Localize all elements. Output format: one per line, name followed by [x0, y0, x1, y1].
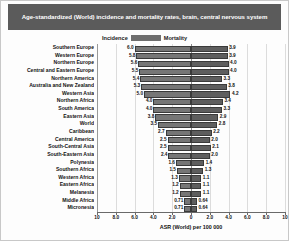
incidence-value-label: 0.71 — [174, 197, 183, 205]
x-axis-title: ASR (World) per 100 000 — [97, 224, 285, 230]
mortality-value-label: 4.0 — [230, 67, 237, 75]
chart-row: Micronesia0.710.64 — [0, 204, 289, 212]
chart-row: South-Central Asia2.52.1 — [0, 143, 289, 151]
incidence-value-label: 1.3 — [171, 174, 178, 182]
mortality-value-label: 1.1 — [203, 189, 210, 197]
incidence-value-label: 5.3 — [134, 82, 141, 90]
incidence-value-label: 5.5 — [132, 67, 139, 75]
mortality-value-label: 2.8 — [219, 120, 226, 128]
category-label: Southern Europe — [0, 44, 94, 52]
chart-legend: Incidence Mortality — [0, 33, 289, 42]
chart-row: Southern Africa1.51.3 — [0, 166, 289, 174]
category-label: Eastern Asia — [0, 113, 94, 121]
axis-tick-label: 2.0 — [169, 215, 176, 220]
axis-tick-label: 6.0 — [131, 215, 138, 220]
mortality-value-label: 0.64 — [199, 197, 208, 205]
chart-row: South America4.03.3 — [0, 105, 289, 113]
mortality-value-label: 1.1 — [203, 174, 210, 182]
axis-tick-label: 10 — [94, 215, 99, 220]
chart-row: Eastern Asia3.82.9 — [0, 113, 289, 121]
category-label: South-Eastern Asia — [0, 151, 94, 159]
chart-row: Northern Africa4.03.4 — [0, 97, 289, 105]
mortality-value-label: 3.9 — [229, 52, 236, 60]
mortality-value-label: 3.3 — [224, 75, 231, 83]
incidence-value-label: 2.7 — [158, 128, 165, 136]
category-label: Melanesia — [0, 189, 94, 197]
category-label: World — [0, 120, 94, 128]
bar-rows: Southern Europe6.03.9Western Europe5.83.… — [0, 44, 289, 212]
chart-row: Western Europe5.83.9 — [0, 52, 289, 60]
chart-row: Middle Africa0.710.64 — [0, 197, 289, 205]
chart-row: South-Eastern Asia2.42.0 — [0, 151, 289, 159]
chart-row: Southern Europe6.03.9 — [0, 44, 289, 52]
incidence-value-label: 3.8 — [148, 113, 155, 121]
mortality-value-label: 0.64 — [199, 204, 208, 212]
incidence-value-label: 2.4 — [161, 151, 168, 159]
category-label: Central America — [0, 136, 94, 144]
incidence-value-label: 4.0 — [146, 105, 153, 113]
incidence-value-label: 5.6 — [131, 59, 138, 67]
mortality-value-label: 3.3 — [224, 105, 231, 113]
chart-row: Northern America5.43.3 — [0, 75, 289, 83]
chart-row: Caribbean2.72.2 — [0, 128, 289, 136]
mortality-value-label: 3.9 — [229, 44, 236, 52]
incidence-value-label: 4.0 — [146, 97, 153, 105]
axis-tick-label: 10 — [282, 215, 287, 220]
axis-tick-label: 4.0 — [150, 215, 157, 220]
category-label: Australia and New Zealand — [0, 82, 94, 90]
mortality-value-label: 2.2 — [213, 128, 220, 136]
legend-mortality-label: Mortality — [164, 35, 187, 41]
mortality-value-label: 4.0 — [230, 59, 237, 67]
x-axis: 108.06.04.02.002.04.06.08.010 — [0, 212, 289, 224]
category-label: Central and Eastern Europe — [0, 67, 94, 75]
incidence-value-label: 5.8 — [129, 52, 136, 60]
mortality-value-label: 3.4 — [224, 97, 231, 105]
category-label: Northern Africa — [0, 97, 94, 105]
incidence-value-label: 2.5 — [160, 143, 167, 151]
category-label: Eastern Africa — [0, 181, 94, 189]
chart-row: Northern Europe5.64.0 — [0, 59, 289, 67]
chart-row: Central and Eastern Europe5.54.0 — [0, 67, 289, 75]
chart-row: Western Asia5.04.2 — [0, 90, 289, 98]
chart-row: Polynesia1.61.4 — [0, 159, 289, 167]
chart-row: World3.52.8 — [0, 120, 289, 128]
category-label: Middle Africa — [0, 197, 94, 205]
category-label: South-Central Asia — [0, 143, 94, 151]
axis-tick-label: 4.0 — [225, 215, 232, 220]
chart-title: Age-standardized (World) incidence and m… — [8, 4, 281, 30]
category-label: Caribbean — [0, 128, 94, 136]
incidence-value-label: 6.0 — [127, 44, 134, 52]
incidence-value-label: 2.5 — [160, 136, 167, 144]
category-label: Northern America — [0, 75, 94, 83]
chart-figure: Age-standardized (World) incidence and m… — [0, 0, 289, 241]
mortality-value-label: 2.0 — [211, 151, 218, 159]
mortality-value-label: 4.2 — [232, 90, 239, 98]
category-label: Northern Europe — [0, 59, 94, 67]
chart-row: Australia and New Zealand5.33.8 — [0, 82, 289, 90]
category-label: Southern Africa — [0, 166, 94, 174]
mortality-value-label: 2.9 — [220, 113, 227, 121]
mortality-value-label: 2.0 — [211, 136, 218, 144]
incidence-value-label: 3.5 — [151, 120, 158, 128]
category-label: Western Europe — [0, 52, 94, 60]
incidence-value-label: 1.2 — [172, 181, 179, 189]
mortality-value-label: 2.1 — [212, 143, 219, 151]
chart-title-text: Age-standardized (World) incidence and m… — [22, 13, 268, 20]
mortality-value-label: 3.8 — [228, 82, 235, 90]
category-label: Micronesia — [0, 204, 94, 212]
legend-incidence-label: Incidence — [102, 35, 128, 41]
mortality-value-label: 1.4 — [206, 159, 213, 167]
chart-row: Central America2.52.0 — [0, 136, 289, 144]
mortality-value-label: 1.3 — [205, 166, 212, 174]
category-label: Polynesia — [0, 159, 94, 167]
axis-tick-label: 0 — [190, 215, 193, 220]
chart-row: Melanesia1.21.1 — [0, 189, 289, 197]
plot-area: Southern Europe6.03.9Western Europe5.83.… — [0, 44, 289, 212]
axis-tick-label: 8.0 — [112, 215, 119, 220]
incidence-value-label: 1.2 — [172, 189, 179, 197]
axis-tick-label: 6.0 — [244, 215, 251, 220]
axis-tick-label: 8.0 — [263, 215, 270, 220]
chart-row: Western Africa1.31.1 — [0, 174, 289, 182]
category-label: Western Asia — [0, 90, 94, 98]
incidence-value-label: 0.71 — [174, 204, 183, 212]
